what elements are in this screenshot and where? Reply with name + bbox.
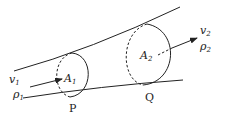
velocity-1-label: v1 (9, 73, 20, 87)
point-p-label: P (69, 102, 77, 115)
area-1-label: A1 (63, 72, 76, 86)
tube-upper-wall (14, 7, 180, 71)
velocity-arrow-2 (172, 38, 197, 48)
density-1-label: ρ1 (12, 88, 24, 102)
flow-tube-diagram: v1 ρ1 A1 P A2 v2 ρ2 Q (0, 0, 225, 120)
density-2-label: ρ2 (199, 40, 211, 54)
velocity-2-label: v2 (200, 24, 211, 38)
area-2-label: A2 (139, 49, 153, 63)
point-q-label: Q (145, 91, 154, 104)
